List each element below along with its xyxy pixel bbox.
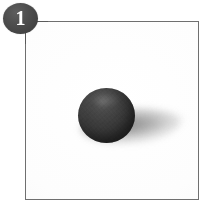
figure-panel: 1	[0, 0, 210, 206]
callout-badge: 1	[3, 3, 38, 34]
photo-frame	[25, 21, 199, 200]
ball-object	[78, 88, 135, 143]
photo-canvas	[26, 22, 198, 199]
callout-badge-number: 1	[16, 8, 26, 29]
